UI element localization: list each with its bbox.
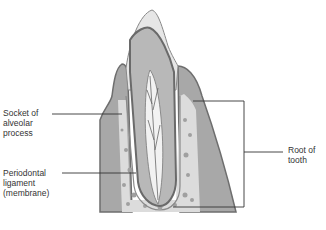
- label-line: alveolar: [3, 118, 38, 128]
- label-periodontal-ligament: Periodontal ligament (membrane): [3, 168, 49, 198]
- label-line: ligament: [3, 178, 49, 188]
- label-root-of-tooth: Root of tooth: [288, 145, 315, 165]
- label-line: (membrane): [3, 188, 49, 198]
- label-line: Socket of: [3, 108, 38, 118]
- label-line: tooth: [288, 155, 315, 165]
- label-line: Root of: [288, 145, 315, 155]
- label-socket-of-alveolar-process: Socket of alveolar process: [3, 108, 38, 138]
- label-line: process: [3, 128, 38, 138]
- label-line: Periodontal: [3, 168, 49, 178]
